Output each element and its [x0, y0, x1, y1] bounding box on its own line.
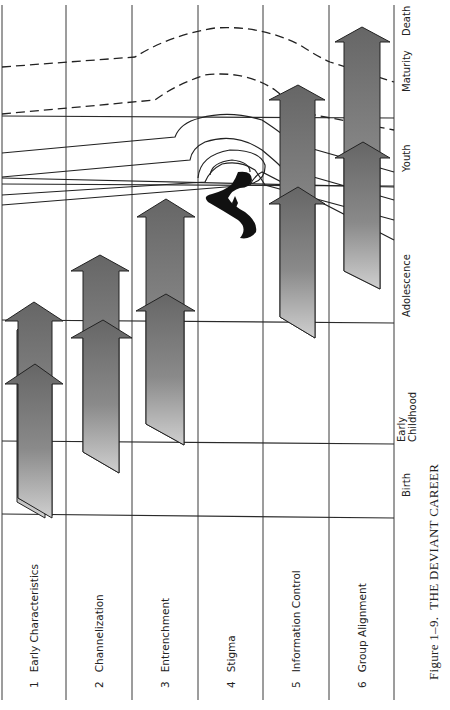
dimension-label-2: 2Channelization: [93, 594, 105, 688]
dimension-label-1: 1Early Characteristics: [28, 564, 40, 688]
dimension-label-6: 6Group Alignment: [356, 583, 368, 688]
dimension-label-4: 4Stigma: [225, 635, 237, 688]
dimension-label-5: 5Information Control: [290, 570, 302, 688]
stage-label-early-childhood: EarlyChildhood: [396, 392, 418, 442]
life-stage-labels: Birth EarlyChildhood Adolescence Youth M…: [396, 6, 418, 497]
stage-label-adolescence: Adolescence: [401, 254, 412, 317]
stage-label-birth: Birth: [401, 473, 412, 497]
arrow-information-control: [269, 85, 325, 338]
dimension-label-3: 3Entrenchment: [159, 598, 171, 688]
stigma-loops: [198, 150, 265, 184]
arrow-early-characteristics: [5, 302, 63, 518]
arrow-channelization: [71, 255, 132, 473]
stage-label-youth: Youth: [401, 145, 412, 174]
figure-caption: Figure 1–9.THE DEVIANT CAREER: [426, 464, 441, 680]
deviant-career-diagram: 1Early Characteristics 2Channelization 3…: [0, 0, 450, 710]
stigma-mark-icon: [206, 172, 257, 239]
stage-label-death: Death: [401, 6, 412, 36]
stage-label-maturity: Maturity: [401, 50, 412, 92]
